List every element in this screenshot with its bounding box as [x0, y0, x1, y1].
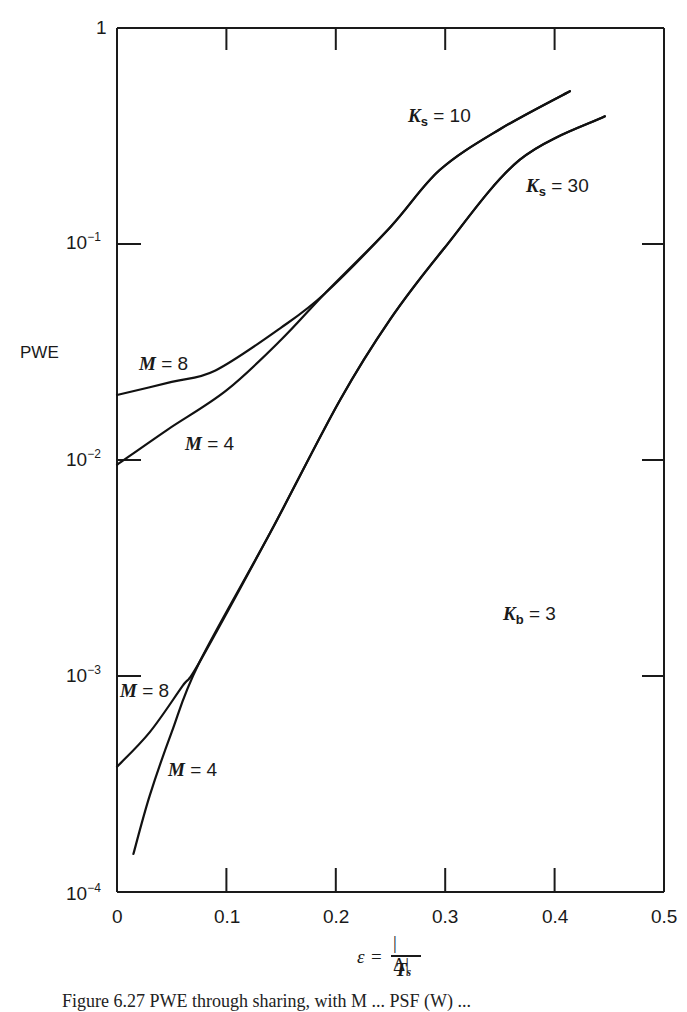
x-tick-0.3: 0.3 — [432, 907, 458, 926]
annotation-m8-lower: M = 8 — [118, 681, 171, 700]
y-axis-label: PWE — [20, 344, 59, 361]
x-tick-0.1: 0.1 — [214, 907, 240, 926]
annotation-kb3: Kb = 3 — [503, 604, 556, 626]
data-curves — [117, 91, 605, 854]
curve-series-3 — [133, 116, 605, 854]
x-tick-0.2: 0.2 — [323, 907, 349, 926]
x-tick-0.4: 0.4 — [542, 907, 568, 926]
annotation-m4-upper: M = 4 — [185, 434, 234, 453]
annotation-ks10: Ks = 10 — [408, 106, 471, 128]
annotation-m8-upper: M = 8 — [139, 354, 188, 373]
y-tick-1e-4: 10−4 — [66, 882, 101, 903]
curve-series-1 — [117, 91, 570, 465]
y-tick-1: 1 — [96, 18, 107, 37]
figure-caption: Figure 6.27 PWE through sharing, with M … — [62, 991, 471, 1012]
y-tick-1e-1: 10−1 — [66, 231, 101, 252]
y-tick-1e-3: 10−3 — [66, 664, 101, 685]
x-tick-0.5: 0.5 — [651, 907, 677, 926]
annotation-m4-lower: M = 4 — [168, 760, 217, 779]
fraction-bar — [391, 955, 421, 957]
y-tick-1e-2: 10−2 — [66, 448, 101, 469]
curve-series-0 — [117, 91, 570, 395]
annotation-ks30: Ks = 30 — [526, 176, 589, 198]
x-tick-0: 0 — [112, 907, 123, 926]
